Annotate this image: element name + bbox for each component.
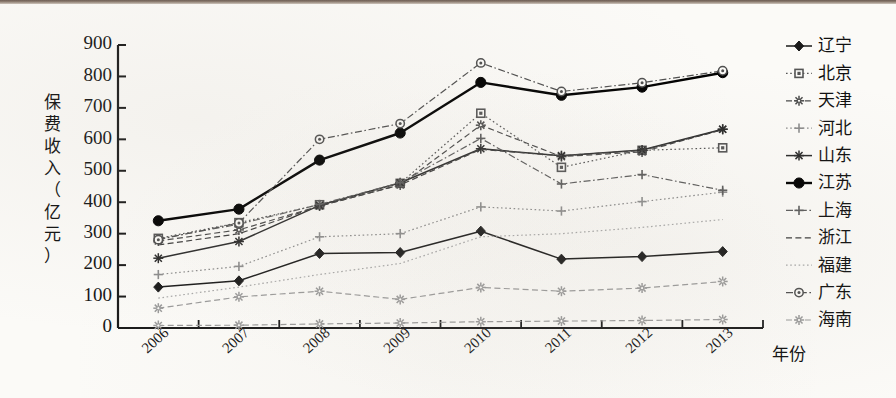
legend-label: 辽宁 — [818, 36, 852, 55]
x-tick-label: 2011 — [542, 324, 575, 356]
datapoint-北京 — [477, 109, 485, 117]
legend-item-福建[interactable]: 福建 — [786, 256, 852, 275]
legend-item-江苏[interactable]: 江苏 — [786, 173, 852, 192]
legend-item-浙江[interactable]: 浙江 — [786, 228, 852, 247]
datapoint-河北 — [234, 262, 243, 271]
legend-item-海南[interactable]: 海南 — [786, 310, 852, 329]
legend-label: 广东 — [818, 283, 852, 302]
y-axis-title-char: （ — [44, 181, 61, 200]
datapoint-辽宁 — [718, 247, 727, 257]
datapoint-江苏 — [153, 216, 163, 226]
y-tick-label: 100 — [84, 284, 113, 305]
datapoint-海南 — [718, 315, 728, 325]
datapoint-北京 — [557, 163, 565, 171]
datapoint-广东 — [638, 79, 646, 87]
datapoint-海南 — [637, 315, 647, 325]
datapoint-辽宁2 — [315, 286, 325, 296]
legend-item-辽宁[interactable]: 辽宁 — [786, 36, 852, 55]
datapoint-上海 — [557, 179, 566, 188]
y-axis-title-char: 元 — [44, 225, 61, 244]
legend-item-广东[interactable]: 广东 — [786, 283, 852, 302]
datapoint-河北 — [315, 232, 324, 241]
legend-label: 天津 — [818, 91, 852, 110]
legend-label: 海南 — [818, 310, 852, 329]
y-tick-label: 800 — [84, 64, 113, 85]
legend-marker-circle-marker — [794, 178, 804, 188]
legend-item-天津[interactable]: 天津 — [786, 91, 852, 110]
y-tick-label: 700 — [84, 95, 113, 116]
datapoint-江苏 — [234, 204, 244, 214]
y-axis-title-char: 亿 — [44, 203, 61, 222]
datapoint-广东 — [396, 119, 404, 127]
datapoint-辽宁 — [234, 276, 243, 286]
legend-marker-square-marker — [795, 69, 803, 77]
datapoint-广东 — [154, 235, 162, 243]
datapoint-北京 — [719, 144, 727, 152]
datapoint-山东 — [718, 124, 728, 134]
datapoint-上海 — [637, 170, 646, 179]
data-series-group — [153, 59, 727, 331]
datapoint-河北 — [637, 197, 646, 206]
datapoint-河北 — [557, 206, 566, 215]
datapoint-辽宁 — [557, 254, 566, 264]
datapoint-广东 — [477, 59, 485, 67]
legend-marker-diamond-marker — [794, 41, 803, 51]
y-tick-label: 300 — [84, 221, 113, 242]
datapoint-辽宁2 — [234, 292, 244, 302]
datapoint-辽宁 — [637, 252, 646, 262]
y-axis-tick-labels: 0100200300400500600700800900 — [84, 32, 113, 336]
y-tick-label: 500 — [84, 158, 113, 179]
legend-label: 江苏 — [818, 173, 852, 192]
legend-label: 福建 — [818, 256, 852, 275]
legend-item-北京[interactable]: 北京 — [786, 64, 852, 83]
y-tick-marks — [118, 45, 126, 297]
datapoint-辽宁2 — [718, 276, 728, 286]
legend-label: 河北 — [818, 119, 852, 138]
datapoint-山东 — [153, 253, 163, 263]
y-tick-label: 600 — [84, 127, 113, 148]
datapoint-辽宁 — [396, 248, 405, 258]
datapoint-河北 — [154, 270, 163, 279]
y-tick-label: 0 — [103, 315, 113, 336]
datapoint-辽宁2 — [637, 283, 647, 293]
legend-marker-plus-marker — [794, 206, 803, 215]
datapoint-天津 — [476, 120, 486, 130]
legend-item-河北[interactable]: 河北 — [786, 119, 852, 138]
datapoint-江苏 — [476, 77, 486, 87]
datapoint-辽宁2 — [556, 286, 566, 296]
datapoint-上海 — [476, 134, 485, 143]
legend-item-上海[interactable]: 上海 — [786, 201, 852, 220]
chart-figure: 保费收入（亿元） 0100200300400500600700800900 20… — [0, 0, 896, 398]
datapoint-海南 — [556, 316, 566, 326]
legend-label: 山东 — [818, 146, 852, 165]
y-tick-label: 400 — [84, 190, 113, 211]
legend-marker-star-marker — [794, 96, 804, 106]
datapoint-上海 — [718, 186, 727, 195]
datapoint-河北 — [396, 229, 405, 238]
datapoint-江苏 — [395, 128, 405, 138]
y-tick-label: 900 — [84, 32, 113, 53]
y-tick-label: 200 — [84, 252, 113, 273]
datapoint-山东 — [234, 237, 244, 247]
datapoint-辽宁 — [476, 226, 485, 236]
y-axis-title-char: 保 — [44, 93, 61, 112]
y-axis-title-char: 费 — [44, 115, 61, 134]
legend-marker-circledot-marker — [795, 288, 803, 296]
series-line-福建 — [158, 220, 722, 299]
datapoint-广东 — [718, 67, 726, 75]
y-axis-title-char: 收 — [44, 137, 61, 156]
legend-label: 北京 — [818, 64, 852, 83]
x-axis-title: 年份 — [772, 345, 806, 364]
chart-legend: 辽宁北京天津河北山东江苏上海浙江福建广东海南 — [786, 36, 852, 329]
datapoint-广东 — [315, 135, 323, 143]
datapoint-山东 — [476, 144, 486, 154]
legend-label: 上海 — [818, 201, 852, 220]
legend-marker-asterisk-marker — [794, 151, 804, 161]
datapoint-江苏 — [315, 155, 325, 165]
legend-item-山东[interactable]: 山东 — [786, 146, 852, 165]
legend-marker-star-marker — [794, 315, 804, 325]
series-line-河北 — [158, 192, 722, 274]
datapoint-广东 — [557, 87, 565, 95]
datapoint-广东 — [235, 219, 243, 227]
line-chart-svg: 保费收入（亿元） 0100200300400500600700800900 20… — [0, 0, 896, 398]
